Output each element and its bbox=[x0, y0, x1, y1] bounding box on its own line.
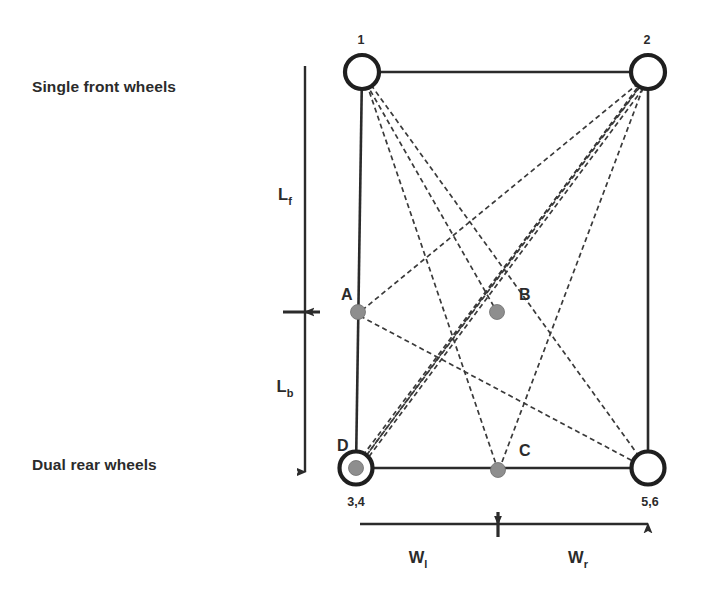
point-label-A: A bbox=[341, 286, 353, 303]
wheel-number-w2: 2 bbox=[644, 33, 651, 47]
interior-points-group: ABCD bbox=[337, 286, 531, 478]
dimension-label-lf: Lf bbox=[278, 185, 292, 207]
label-single-front-wheels: Single front wheels bbox=[32, 78, 176, 95]
diagram-canvas: Single front wheels Dual rear wheels Lf … bbox=[0, 0, 707, 589]
point-label-D: D bbox=[337, 437, 349, 454]
dashed-connection-network bbox=[358, 76, 648, 470]
dimension-label-wl: Wl bbox=[409, 548, 428, 570]
wheel-number-w34: 3,4 bbox=[347, 495, 364, 509]
point-dot-C bbox=[491, 463, 506, 478]
dashed-w2-to-A bbox=[360, 78, 645, 312]
label-dual-rear-wheels: Dual rear wheels bbox=[32, 456, 157, 473]
point-label-C: C bbox=[519, 442, 531, 459]
dashed-w1-to-B bbox=[362, 76, 497, 312]
dashed-A-to-w2b bbox=[360, 316, 646, 468]
point-label-B: B bbox=[519, 286, 531, 303]
point-dot-A bbox=[351, 305, 366, 320]
wheel-node-w1 bbox=[345, 55, 379, 89]
dashed-w1-to-C bbox=[364, 76, 498, 470]
wheel-number-w56: 5,6 bbox=[641, 495, 658, 509]
horizontal-dimension-group: Wl Wr bbox=[360, 512, 648, 570]
point-dot-B bbox=[490, 305, 505, 320]
dimension-label-lb: Lb bbox=[277, 377, 294, 399]
wheel-node-w2 bbox=[631, 55, 665, 89]
wheel-node-dot-w34 bbox=[349, 461, 364, 476]
wheel-number-w1: 1 bbox=[358, 33, 365, 47]
wheel-node-w56 bbox=[632, 452, 665, 485]
left-edge bbox=[356, 72, 362, 468]
vertical-dimension-group: Lf Lb bbox=[277, 66, 320, 472]
wheel-geometry-diagram: Single front wheels Dual rear wheels Lf … bbox=[0, 0, 707, 589]
dimension-label-wr: Wr bbox=[568, 548, 589, 570]
